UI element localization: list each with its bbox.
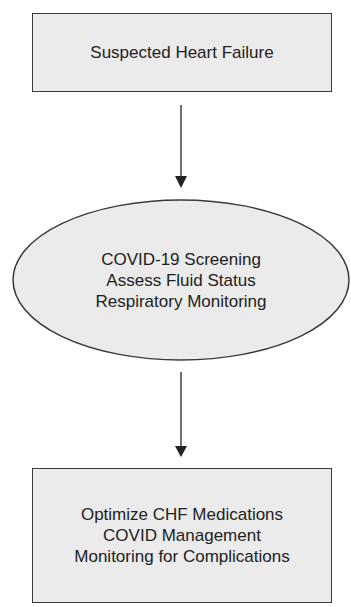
node-label: Monitoring for Complications: [74, 546, 289, 567]
node-label: Assess Fluid Status: [106, 270, 255, 291]
node-management: Optimize CHF Medications COVID Managemen…: [32, 468, 332, 603]
arrowhead-icon: [175, 446, 187, 457]
node-label: Suspected Heart Failure: [90, 42, 273, 63]
node-screening-text: COVID-19 Screening Assess Fluid Status R…: [13, 200, 349, 360]
arrow-2: [175, 372, 187, 457]
node-suspected-heart-failure: Suspected Heart Failure: [32, 13, 332, 92]
arrowhead-icon: [175, 176, 187, 188]
node-label: COVID-19 Screening: [101, 249, 261, 270]
node-label: Respiratory Monitoring: [95, 291, 266, 312]
arrow-1: [175, 105, 187, 188]
node-label: Optimize CHF Medications: [81, 504, 283, 525]
node-label: COVID Management: [103, 525, 261, 546]
